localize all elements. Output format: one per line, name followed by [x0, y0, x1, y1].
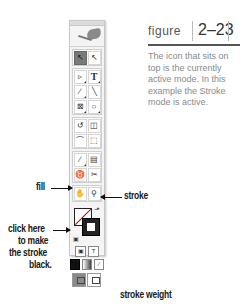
selection-tool-button[interactable]: ↖ [74, 51, 87, 65]
default-fill-stroke-icon[interactable]: ▣ [73, 235, 79, 242]
gradient-tool-button[interactable]: ▤ [88, 153, 101, 167]
shear-tool-button[interactable]: ⌒ [74, 134, 87, 148]
toolbox-panel: ↖ ↖ ▹ T ∕ ╲ ⊠ ○ ↺ ◫ ⌒ ⬚ ∕ ▤ [69, 20, 105, 256]
rotate-icon: ↺ [77, 121, 84, 130]
eyedropper-icon: ∕ [79, 155, 80, 164]
type-icon: T [91, 71, 98, 82]
stroke-arrow [101, 197, 122, 198]
line-tool-button[interactable]: ╲ [88, 85, 101, 99]
rectangle-frame-tool-button[interactable]: ⊠ [74, 100, 87, 114]
fill-arrow [51, 188, 72, 189]
figure-divider [192, 21, 193, 41]
apply-none-button[interactable]: ∕ [94, 259, 104, 270]
figure-divider-right [228, 21, 229, 41]
fill-label: fill [36, 181, 45, 192]
pen-tool-button[interactable]: ▹ [74, 70, 87, 84]
type-tool-button[interactable]: T [88, 70, 101, 84]
button-tool-button[interactable]: ♉ [74, 168, 87, 182]
free-transform-tool-button[interactable]: ⬚ [88, 134, 101, 148]
selection-tools-group: ↖ ↖ [72, 49, 102, 66]
click-here-arrow [53, 230, 70, 231]
formatting-affects-row: ▣ T [70, 246, 104, 257]
direct-selection-tool-button[interactable]: ↖ [88, 51, 101, 65]
pen-icon: ▹ [78, 72, 82, 81]
selection-arrow-icon: ↖ [77, 53, 84, 62]
fill-stroke-control: ⬏ ▣ [72, 206, 102, 244]
click-here-label: click here [8, 223, 45, 234]
formatting-affects-text-button[interactable]: T [88, 246, 99, 257]
stroke-label: stroke [124, 190, 148, 201]
hand-icon: ✋ [75, 189, 85, 198]
modify-tools-group: ∕ ▤ ♉ ✂ [72, 151, 102, 183]
pencil-tool-button[interactable]: ∕ [74, 85, 87, 99]
stroke-swatch[interactable] [82, 218, 100, 236]
scissors-tool-button[interactable]: ✂ [88, 168, 101, 182]
stroke-inner [87, 223, 95, 231]
preview-view-button[interactable] [87, 273, 101, 287]
shear-icon: ⌒ [76, 136, 84, 145]
click-here-line4: black. [29, 259, 52, 270]
stroke-weight-label: stroke weight [120, 289, 171, 300]
magnifier-icon: ⚲ [91, 189, 97, 198]
apply-gradient-button[interactable] [82, 259, 92, 270]
scale-tool-button[interactable]: ◫ [88, 119, 101, 133]
apply-row: ∕ [70, 259, 104, 270]
ellipse-tool-button[interactable]: ○ [88, 100, 101, 114]
indesign-logo [70, 26, 104, 47]
normal-view-button[interactable] [72, 273, 86, 287]
normal-view-icon [77, 277, 85, 284]
scissors-icon: ✂ [91, 170, 98, 179]
ellipse-icon: ○ [92, 102, 97, 111]
figure-word: figure [148, 24, 181, 38]
preview-view-icon [92, 277, 100, 284]
click-here-line2: to make [18, 235, 48, 246]
rotate-tool-button[interactable]: ↺ [74, 119, 87, 133]
formatting-affects-container-button[interactable]: ▣ [75, 246, 86, 257]
hand-tool-button[interactable]: ✋ [74, 187, 87, 201]
gradient-icon: ▤ [90, 155, 98, 164]
click-here-line3: the stroke [9, 247, 47, 258]
direct-selection-arrow-icon: ↖ [91, 53, 98, 62]
rectangle-frame-icon: ⊠ [77, 102, 84, 111]
line-icon: ╲ [92, 87, 97, 96]
drawing-tools-group: ▹ T ∕ ╲ ⊠ ○ [72, 68, 102, 115]
figure-caption: The icon that sits on top is the current… [148, 51, 243, 109]
eyedropper-tool-button[interactable]: ∕ [74, 153, 87, 167]
scale-icon: ◫ [90, 121, 98, 130]
button-tool-icon: ♉ [75, 170, 85, 179]
navigation-tools-group: ✋ ⚲ [72, 185, 102, 202]
transform-tools-group: ↺ ◫ ⌒ ⬚ [72, 117, 102, 149]
view-mode-row [72, 273, 102, 287]
figure-header: figure 2–23 [148, 18, 240, 46]
apply-color-button[interactable] [70, 259, 80, 270]
zoom-tool-button[interactable]: ⚲ [88, 187, 101, 201]
swap-fill-stroke-icon[interactable]: ⬏ [94, 206, 100, 214]
free-transform-icon: ⬚ [90, 136, 98, 145]
pencil-icon: ∕ [79, 87, 80, 96]
